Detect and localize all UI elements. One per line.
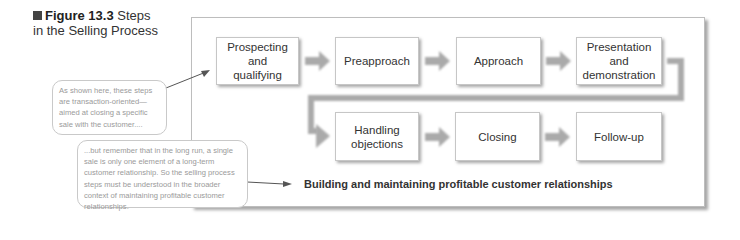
step-preapproach: Preapproach <box>335 37 419 85</box>
step-label: Preapproach <box>344 54 410 68</box>
arrow-right-icon <box>545 127 570 147</box>
step-handling-objections: Handling objections <box>335 112 419 161</box>
step-presentation: Presentation and demonstration <box>576 37 662 85</box>
step-follow-up: Follow-up <box>576 112 662 161</box>
arrow-right-icon <box>305 51 330 71</box>
step-label: Presentation and demonstration <box>579 40 659 82</box>
step-label: Handling objections <box>347 123 407 151</box>
arrow-right-icon <box>425 127 450 147</box>
arrow-right-icon <box>425 51 450 71</box>
step-prospecting: Prospecting and qualifying <box>216 37 299 85</box>
step-closing: Closing <box>455 112 540 161</box>
step-label: Follow-up <box>594 130 644 144</box>
step-approach: Approach <box>456 37 541 85</box>
step-label: Prospecting and qualifying <box>223 40 293 82</box>
relationship-label: Building and maintaining profitable cust… <box>304 178 613 190</box>
arrow-right-icon <box>546 51 571 71</box>
callout-transaction: As shown here, these steps are transacti… <box>52 80 167 135</box>
step-label: Approach <box>474 54 523 68</box>
step-label: Closing <box>478 130 516 144</box>
callout-long-run: ...but remember that in the long run, a … <box>77 140 248 208</box>
